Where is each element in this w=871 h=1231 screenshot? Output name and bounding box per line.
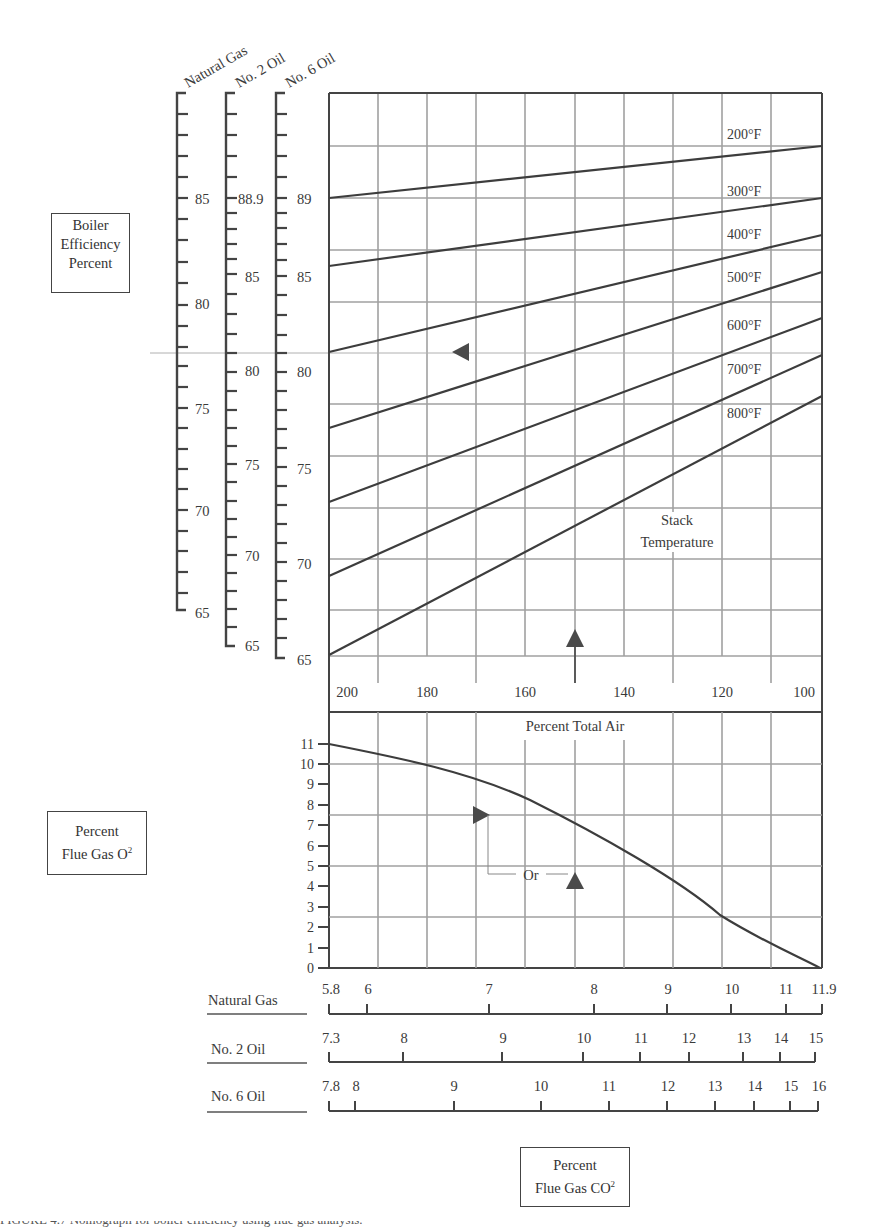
svg-text:13: 13: [737, 1030, 752, 1046]
natural-gas-efficiency-labels: 85 80 75 70 65: [195, 191, 210, 621]
svg-text:8: 8: [307, 798, 314, 813]
natural-gas-efficiency-scale: [177, 93, 186, 610]
svg-text:180: 180: [416, 684, 438, 700]
header-no6-oil: No. 6 Oil: [283, 50, 338, 91]
svg-text:75: 75: [195, 401, 210, 417]
svg-text:1: 1: [307, 941, 314, 956]
co2-row-labels: Natural Gas No. 2 Oil No. 6 Oil: [208, 992, 278, 1104]
svg-text:4: 4: [307, 879, 314, 894]
svg-text:100: 100: [793, 684, 815, 700]
svg-text:11: 11: [779, 981, 793, 997]
svg-text:Temperature: Temperature: [640, 534, 713, 550]
svg-text:80: 80: [245, 363, 260, 379]
svg-text:14: 14: [748, 1078, 763, 1094]
co2-no6-oil-scale: [329, 1101, 818, 1111]
flue-gas-co2-label-box: Percent Flue Gas CO2: [520, 1147, 630, 1207]
temp-label-300: 300°F: [727, 184, 762, 199]
svg-text:80: 80: [195, 296, 210, 312]
svg-text:10: 10: [725, 981, 740, 997]
svg-text:10: 10: [300, 757, 314, 772]
svg-text:9: 9: [307, 777, 314, 792]
svg-text:80: 80: [297, 364, 312, 380]
temp-label-400: 400°F: [727, 227, 762, 242]
no6-oil-efficiency-labels: 89 85 80 75 70 65: [297, 191, 312, 668]
svg-text:No. 6 Oil: No. 6 Oil: [211, 1088, 265, 1104]
arrow-up-icon: [566, 872, 584, 889]
svg-text:8: 8: [590, 981, 597, 997]
or-bracket: [488, 815, 516, 874]
svg-text:12: 12: [661, 1078, 676, 1094]
boiler-efficiency-nomograph: 200°F 300°F 400°F 500°F 600°F 700°F 800°…: [0, 0, 871, 1231]
svg-text:89: 89: [297, 191, 312, 207]
or-label: Or: [523, 867, 538, 883]
no2-oil-minor-ticks: [226, 114, 237, 627]
svg-text:5.8: 5.8: [322, 981, 340, 997]
svg-text:10: 10: [577, 1030, 592, 1046]
fuel-headers: Natural Gas No. 2 Oil No. 6 Oil: [182, 42, 338, 91]
svg-text:15: 15: [784, 1078, 799, 1094]
svg-text:7: 7: [307, 818, 314, 833]
svg-text:65: 65: [297, 652, 312, 668]
svg-text:200: 200: [336, 684, 358, 700]
svg-text:140: 140: [613, 684, 635, 700]
svg-text:11.9: 11.9: [812, 981, 837, 997]
svg-text:11: 11: [634, 1030, 648, 1046]
svg-text:85: 85: [297, 269, 312, 285]
svg-text:8: 8: [400, 1030, 407, 1046]
svg-text:No. 2 Oil: No. 2 Oil: [211, 1041, 265, 1057]
svg-text:70: 70: [195, 503, 210, 519]
svg-text:Natural Gas: Natural Gas: [208, 992, 278, 1008]
temp-label-700: 700°F: [727, 362, 762, 377]
svg-text:160: 160: [514, 684, 536, 700]
svg-text:85: 85: [195, 191, 210, 207]
o2-axis: [318, 744, 329, 968]
svg-text:13: 13: [708, 1078, 723, 1094]
svg-text:15: 15: [809, 1030, 824, 1046]
svg-text:120: 120: [711, 684, 733, 700]
temp-label-600: 600°F: [727, 318, 762, 333]
nomograph-svg: 200°F 300°F 400°F 500°F 600°F 700°F 800°…: [0, 0, 871, 1231]
svg-text:65: 65: [195, 605, 210, 621]
o2-tick-labels: 0 1 2 3 4 5 6 7 8 9 10 11: [300, 737, 314, 976]
svg-text:8: 8: [352, 1078, 359, 1094]
svg-text:12: 12: [682, 1030, 697, 1046]
svg-text:7.3: 7.3: [322, 1030, 340, 1046]
svg-text:6: 6: [364, 981, 371, 997]
co2-natural-gas-scale: [329, 1004, 822, 1014]
svg-text:9: 9: [450, 1078, 457, 1094]
svg-text:Stack: Stack: [661, 512, 694, 528]
temperature-labels: 200°F 300°F 400°F 500°F 600°F 700°F 800°…: [726, 125, 768, 421]
lower-grid: [329, 712, 822, 968]
svg-text:88.9: 88.9: [238, 191, 263, 207]
temp-label-500: 500°F: [727, 270, 762, 285]
arrow-left-icon: [452, 343, 469, 361]
svg-text:9: 9: [499, 1030, 506, 1046]
svg-text:7: 7: [485, 981, 492, 997]
svg-text:3: 3: [307, 900, 314, 915]
svg-text:14: 14: [774, 1030, 789, 1046]
svg-text:75: 75: [245, 457, 260, 473]
svg-text:0: 0: [307, 961, 314, 976]
temp-label-200: 200°F: [727, 127, 762, 142]
no2-oil-efficiency-labels: 88.9 85 80 75 70 65: [238, 191, 263, 654]
temp-label-800: 800°F: [727, 406, 762, 421]
svg-text:65: 65: [245, 638, 260, 654]
co2-no2-oil-labels: 7.3 8 9 10 11 12 13 14 15: [322, 1030, 823, 1046]
total-air-label: Percent Total Air: [526, 718, 625, 734]
stack-temperature-label: Stack Temperature: [628, 512, 720, 552]
svg-text:7.8: 7.8: [322, 1078, 340, 1094]
total-air-ticks: 200 180 160 140 120 100: [332, 660, 819, 700]
svg-text:11: 11: [301, 737, 314, 752]
svg-text:9: 9: [664, 981, 671, 997]
no6-oil-minor-ticks: [276, 114, 287, 638]
boiler-efficiency-label-box: Boiler Efficiency Percent: [51, 213, 130, 293]
svg-text:10: 10: [534, 1078, 549, 1094]
svg-text:85: 85: [245, 269, 260, 285]
arrow-up-icon: [566, 629, 584, 647]
co2-no2-oil-scale: [329, 1052, 815, 1062]
svg-text:75: 75: [297, 461, 312, 477]
svg-text:70: 70: [297, 556, 312, 572]
svg-text:70: 70: [245, 548, 260, 564]
svg-text:2: 2: [307, 920, 314, 935]
svg-text:11: 11: [602, 1078, 616, 1094]
